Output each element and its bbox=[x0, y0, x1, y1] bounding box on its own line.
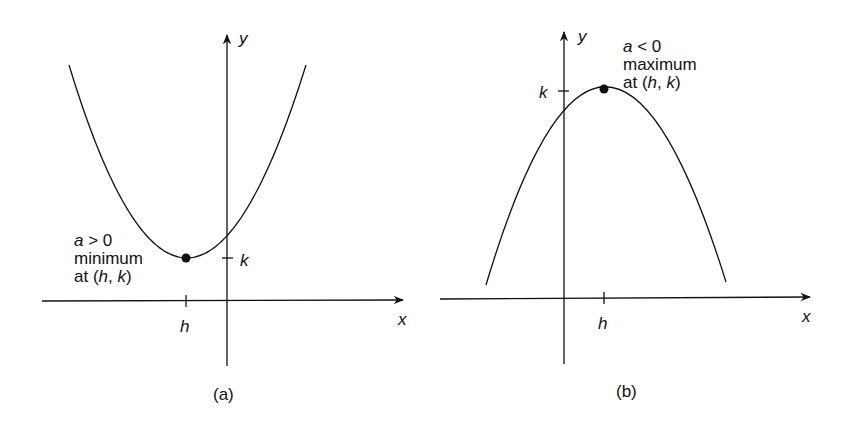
k-label-a: k bbox=[240, 251, 250, 270]
annotation-a: a > 0 bbox=[74, 231, 112, 250]
parabola-figure: y x h k a > 0 minimum at (h, k) (a) y x … bbox=[0, 0, 856, 428]
h-label-a: h bbox=[180, 317, 189, 336]
y-axis-label-b: y bbox=[577, 27, 588, 46]
x-axis-b bbox=[440, 297, 810, 299]
panel-b: y x h k a < 0 maximum at (h, k) (b) bbox=[440, 27, 811, 401]
k-label-b: k bbox=[539, 83, 549, 102]
y-axis-label-a: y bbox=[238, 29, 249, 48]
annotation-b-line3: at (h, k) bbox=[623, 73, 681, 92]
annotation-a-line2: minimum bbox=[74, 249, 143, 268]
panel-a: y x h k a > 0 minimum at (h, k) (a) bbox=[42, 29, 407, 404]
x-axis-label-a: x bbox=[397, 310, 407, 329]
parabola-up-curve bbox=[69, 65, 306, 258]
x-axis-a bbox=[42, 300, 403, 301]
annotation-a-line3: at (h, k) bbox=[74, 267, 132, 286]
vertex-point-a bbox=[182, 254, 191, 263]
caption-a: (a) bbox=[213, 385, 234, 404]
annotation-b: a < 0 bbox=[623, 37, 661, 56]
x-axis-label-b: x bbox=[801, 307, 811, 326]
h-label-b: h bbox=[598, 314, 607, 333]
caption-b: (b) bbox=[616, 382, 637, 401]
parabola-down-curve bbox=[486, 87, 726, 285]
annotation-b-line2: maximum bbox=[623, 55, 697, 74]
vertex-point-b bbox=[600, 85, 609, 94]
